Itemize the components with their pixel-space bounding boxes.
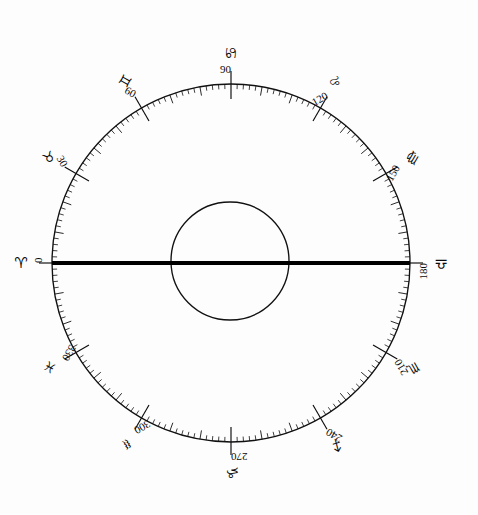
degree-tick [360, 143, 364, 146]
degree-tick [273, 432, 274, 437]
degree-tick [356, 139, 360, 142]
degree-tick [289, 423, 292, 431]
degree-label-90: 90 [220, 63, 232, 75]
degree-tick [212, 436, 213, 441]
degree-tick [131, 407, 134, 411]
degree-label-120: 120 [309, 89, 330, 108]
degree-tick [401, 299, 406, 300]
degree-tick [65, 196, 70, 198]
degree-label-270: 270 [231, 451, 248, 463]
degree-tick [90, 153, 94, 156]
degree-tick [136, 411, 139, 415]
degree-tick [333, 118, 336, 122]
degree-tick [98, 143, 102, 146]
degree-tick [261, 430, 263, 439]
degree-tick [170, 423, 173, 431]
degree-tick [67, 334, 72, 336]
pisces-glyph: ♓ [40, 357, 58, 377]
libra-glyph: ♎ [434, 255, 447, 273]
degree-tick [392, 196, 397, 198]
degree-tick [347, 130, 350, 134]
degree-tick [368, 370, 372, 373]
degree-tick [67, 190, 72, 192]
degree-tick [126, 404, 129, 408]
degree-tick [313, 417, 315, 421]
degree-tick [261, 87, 263, 96]
degree-tick [404, 244, 409, 245]
degree-tick [153, 419, 155, 423]
degree-tick [83, 360, 87, 363]
degree-tick [385, 345, 389, 347]
degree-tick [328, 115, 331, 119]
degree-tick [200, 430, 202, 439]
degree-tick [94, 148, 101, 154]
degree-tick [57, 305, 62, 306]
degree-tick [267, 433, 268, 438]
degree-tick [273, 89, 274, 94]
leo-glyph: ♌ [325, 72, 345, 90]
degree-tick [53, 281, 58, 282]
degree-tick [387, 185, 391, 187]
degree-tick [390, 190, 395, 192]
degree-tick [182, 91, 183, 96]
degree-tick [255, 435, 256, 440]
degree-tick [126, 118, 129, 122]
degree-tick [102, 139, 106, 142]
degree-tick [373, 345, 386, 353]
degree-tick [347, 392, 350, 396]
degree-tick [102, 384, 106, 387]
degree-tick [340, 126, 346, 133]
degree-tick [391, 202, 399, 205]
degree-tick [79, 168, 83, 171]
degree-tick [352, 388, 355, 392]
degree-tick [111, 392, 114, 396]
degree-label-330: 330 [60, 343, 79, 364]
degree-tick [379, 355, 383, 358]
degree-tick [164, 97, 166, 102]
degree-tick [328, 407, 331, 411]
degree-tick [57, 220, 62, 221]
degree-tick [398, 214, 403, 215]
degree-tick [194, 88, 195, 93]
degree-tick [54, 238, 59, 239]
degree-tick [65, 328, 70, 330]
degree-label-0: 0 [33, 258, 45, 264]
degree-tick [176, 428, 178, 433]
degree-tick [176, 93, 178, 98]
degree-tick [323, 111, 326, 115]
degree-tick [182, 430, 183, 435]
taurus-glyph: ♉ [39, 147, 57, 167]
degree-tick [142, 405, 150, 418]
degree-label-180: 180 [417, 263, 429, 280]
degree-tick [136, 111, 139, 115]
degree-tick [131, 115, 134, 119]
degree-tick [158, 99, 160, 104]
degree-tick [398, 311, 403, 312]
degree-tick [387, 339, 391, 341]
degree-tick [307, 419, 309, 423]
degree-tick [63, 202, 71, 205]
degree-tick [361, 372, 368, 378]
degree-tick [188, 89, 189, 94]
degree-tick [398, 232, 407, 234]
sign-boundary-tick [321, 418, 328, 429]
degree-tick [153, 102, 155, 106]
degree-tick [267, 88, 268, 93]
degree-tick [55, 293, 64, 295]
cancer-glyph: ♋ [222, 46, 240, 59]
degree-tick [83, 163, 87, 166]
degree-tick [356, 384, 360, 387]
sign-boundary-tick [65, 167, 76, 174]
degree-tick [86, 158, 90, 161]
degree-tick [56, 226, 61, 227]
degree-tick [296, 424, 298, 429]
degree-tick [400, 220, 405, 221]
degree-tick [313, 405, 321, 418]
degree-tick [86, 365, 90, 368]
degree-tick [379, 168, 383, 171]
degree-tick [111, 130, 114, 134]
degree-tick [398, 293, 407, 295]
degree-tick [116, 393, 122, 400]
degree-tick [392, 328, 397, 330]
zodiac-wheel-figure: 0306090120150180210240270300330 ♈♉♊♋♌♍♎♏… [0, 0, 478, 515]
